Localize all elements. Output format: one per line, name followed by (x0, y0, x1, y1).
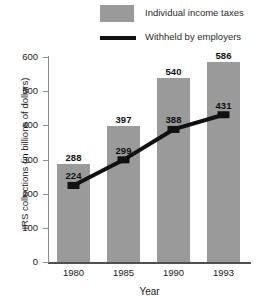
withheld-line (74, 115, 224, 186)
line-marker (218, 111, 230, 118)
line-value-label-1990: 388 (154, 114, 194, 125)
x-tick-label-1980: 1980 (51, 267, 97, 278)
plot-area: 600 500 400 300 200 100 0 (0, 0, 264, 304)
line-value-label-1985: 299 (104, 145, 144, 156)
x-tick-label-1985: 1985 (101, 267, 147, 278)
chart-figure: Individual income taxes Withheld by empl… (0, 0, 264, 304)
x-tick-label-1990: 1990 (151, 267, 197, 278)
x-axis-title: Year (48, 286, 251, 297)
line-marker (118, 156, 130, 163)
line-marker (68, 182, 80, 189)
x-tick-label-1993: 1993 (201, 267, 247, 278)
y-axis-title: IRS collections (in billions of dollars) (19, 64, 30, 244)
line-marker (168, 126, 180, 133)
line-value-label-1993: 431 (204, 100, 244, 111)
line-value-label-1980: 224 (54, 170, 94, 181)
